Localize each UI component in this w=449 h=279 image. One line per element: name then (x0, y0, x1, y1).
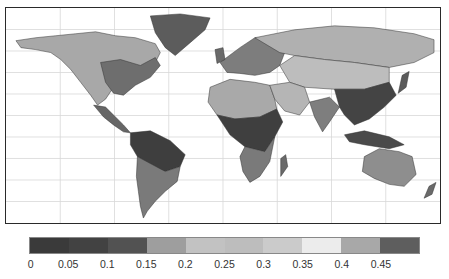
region-japan (398, 71, 409, 93)
colorbar-tick-label: 0.2 (178, 258, 193, 270)
colorbar-segment (186, 238, 225, 253)
colorbar-tick-label: 0.35 (292, 258, 312, 270)
region-new-zealand (424, 182, 436, 198)
region-sahara (208, 79, 277, 119)
colorbar-segment (108, 238, 147, 253)
colorbar-segment (380, 238, 419, 253)
colorbar-tick-label: 0.3 (256, 258, 271, 270)
region-greenland (150, 14, 210, 56)
colorbar-tick-label: 0 (28, 258, 34, 270)
colorbar-tick-label: 0.25 (214, 258, 234, 270)
colorbar (29, 237, 420, 254)
colorbar-segment (341, 238, 380, 253)
region-australia (362, 149, 416, 187)
region-indonesia (344, 131, 404, 149)
colorbar-tick-label: 0.05 (58, 258, 78, 270)
colorbar-segment (263, 238, 302, 253)
colorbar-segment (69, 238, 108, 253)
colorbar-segment (225, 238, 264, 253)
colorbar-segment (147, 238, 186, 253)
map-canvas (6, 8, 440, 223)
colorbar-tick-labels: 00.050.10.150.20.250.30.350.40.45 (29, 258, 420, 272)
colorbar-tick-label: 0.1 (100, 258, 115, 270)
region-madagascar (281, 155, 288, 177)
region-india (310, 97, 340, 132)
colorbar-segment (30, 238, 69, 253)
region-russia-siberia (255, 26, 434, 68)
colorbar-tick-label: 0.4 (334, 258, 349, 270)
region-central-america (94, 105, 131, 133)
world-map (5, 7, 441, 224)
colorbar-tick-label: 0.15 (136, 258, 156, 270)
colorbar-tick-label: 0.45 (371, 258, 391, 270)
colorbar-segment (302, 238, 341, 253)
